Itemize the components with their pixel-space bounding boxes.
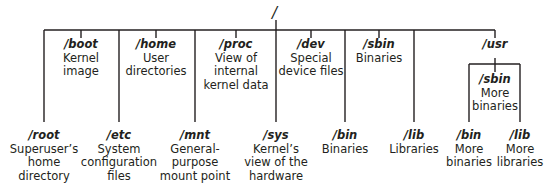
node-usr-lib: /lib More libraries (497, 129, 543, 170)
node-path: /usr (483, 38, 508, 52)
node-desc: Kernel (63, 52, 99, 66)
node-usr-bin: /bin More binaries (446, 129, 492, 170)
node-path: /lib (389, 129, 439, 143)
node-desc: binaries (472, 100, 518, 114)
node-desc: Superuser’s (10, 143, 78, 157)
node-root: /root Superuser’s home directory (10, 129, 78, 183)
node-desc: Binaries (356, 52, 402, 66)
node-path: /bin (446, 129, 492, 143)
node-path: /proc (204, 38, 269, 52)
node-path: /root (10, 129, 78, 143)
node-proc: /proc View of internal kernel data (204, 38, 269, 92)
node-desc: view of the (244, 156, 308, 170)
node-desc: Libraries (389, 143, 439, 157)
node-desc: General- (160, 143, 230, 157)
node-mnt: /mnt General- purpose mount point (160, 129, 230, 183)
node-path: /bin (322, 129, 368, 143)
node-desc: home (10, 156, 78, 170)
node-lib: /lib Libraries (389, 129, 439, 156)
node-path: /etc (81, 129, 157, 143)
node-path: /mnt (160, 129, 230, 143)
node-desc: configuration (81, 156, 157, 170)
node-desc: View of (204, 52, 269, 66)
node-desc: Binaries (322, 143, 368, 157)
node-desc: More (446, 143, 492, 157)
node-desc: binaries (446, 156, 492, 170)
node-usr: /usr (483, 38, 508, 52)
node-sbin: /sbin Binaries (356, 38, 402, 65)
root-directory-label: / (272, 4, 277, 22)
filesystem-tree-diagram: / /boot Kernel image /home User director… (0, 0, 557, 188)
node-desc: files (81, 170, 157, 184)
node-path: /home (126, 38, 187, 52)
node-desc: More (472, 87, 518, 101)
node-path: /dev (279, 38, 344, 52)
node-boot: /boot Kernel image (63, 38, 99, 79)
node-desc: device files (279, 65, 344, 79)
node-bin: /bin Binaries (322, 129, 368, 156)
node-desc: Special (279, 52, 344, 66)
node-desc: directory (10, 170, 78, 184)
node-desc: Kernel’s (244, 143, 308, 157)
node-desc: mount point (160, 170, 230, 184)
node-path: /sbin (472, 73, 518, 87)
node-desc: User (126, 52, 187, 66)
node-desc: System (81, 143, 157, 157)
node-path: /boot (63, 38, 99, 52)
node-desc: directories (126, 65, 187, 79)
node-dev: /dev Special device files (279, 38, 344, 79)
node-desc: image (63, 65, 99, 79)
node-desc: internal (204, 65, 269, 79)
node-sys: /sys Kernel’s view of the hardware (244, 129, 308, 183)
node-path: /sbin (356, 38, 402, 52)
node-desc: More (497, 143, 543, 157)
node-path: /sys (244, 129, 308, 143)
node-path: /lib (497, 129, 543, 143)
node-desc: purpose (160, 156, 230, 170)
node-etc: /etc System configuration files (81, 129, 157, 183)
node-desc: libraries (497, 156, 543, 170)
node-desc: hardware (244, 170, 308, 184)
node-home: /home User directories (126, 38, 187, 79)
node-desc: kernel data (204, 79, 269, 93)
node-usr-sbin: /sbin More binaries (472, 73, 518, 114)
